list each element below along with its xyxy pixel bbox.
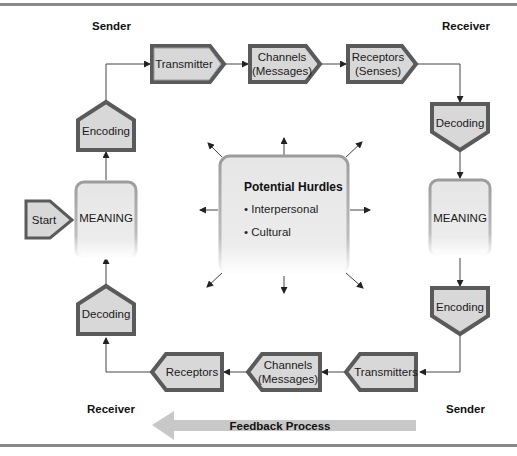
decoding-left-box: Decoding xyxy=(78,286,134,334)
receptors-bottom-label: Receptors xyxy=(166,366,219,378)
meaning-left-box: MEANING xyxy=(76,182,136,258)
encoding-left-label: Encoding xyxy=(82,125,130,137)
label-sender-bottom-right: Sender xyxy=(446,403,486,415)
label-receiver-top-right: Receiver xyxy=(442,20,490,32)
transmitters-label: Transmitters xyxy=(354,366,418,378)
encoding-right-box: Encoding xyxy=(432,288,488,334)
meaning-right-box: MEANING xyxy=(430,180,490,256)
meaning-right-label: MEANING xyxy=(433,212,487,224)
encoding-right-label: Encoding xyxy=(436,301,484,313)
label-sender-top-left: Sender xyxy=(92,20,132,32)
channels-bottom-line1: Channels xyxy=(264,359,313,371)
bottom-rule xyxy=(0,444,517,447)
channels-top-line2: (Messages) xyxy=(252,65,312,77)
channels-top-box: Channels (Messages) xyxy=(250,46,320,82)
label-receiver-bottom-left: Receiver xyxy=(87,403,135,415)
receptors-top-line2: (Senses) xyxy=(355,65,401,77)
channels-bottom-box: Channels (Messages) xyxy=(248,354,320,390)
transmitter-box: Transmitter xyxy=(152,46,224,82)
decoding-left-label: Decoding xyxy=(82,308,131,320)
feedback-process-arrow: Feedback Process xyxy=(152,411,416,440)
start-box: Start xyxy=(26,201,72,238)
transmitter-label: Transmitter xyxy=(155,58,213,70)
receptors-bottom-box: Receptors xyxy=(152,354,222,390)
hurdle-cultural: • Cultural xyxy=(244,226,291,238)
potential-hurdles-box: Potential Hurdles • Interpersonal • Cult… xyxy=(220,156,348,274)
encoding-left-box: Encoding xyxy=(78,102,134,150)
receptors-top-line1: Receptors xyxy=(352,51,405,63)
receptors-top-box: Receptors (Senses) xyxy=(348,46,416,82)
channels-bottom-line2: (Messages) xyxy=(258,373,318,385)
start-label: Start xyxy=(32,214,57,226)
communication-process-diagram: Sender Receiver Receiver Sender xyxy=(0,0,517,456)
meaning-left-label: MEANING xyxy=(79,212,133,224)
feedback-label: Feedback Process xyxy=(229,420,330,432)
top-rule xyxy=(0,3,517,6)
channels-top-line1: Channels xyxy=(258,51,307,63)
decoding-right-label: Decoding xyxy=(436,117,485,129)
transmitters-box: Transmitters xyxy=(346,354,418,390)
decoding-right-box: Decoding xyxy=(432,104,488,150)
hurdles-title: Potential Hurdles xyxy=(244,180,343,194)
hurdle-interpersonal: • Interpersonal xyxy=(244,203,318,215)
